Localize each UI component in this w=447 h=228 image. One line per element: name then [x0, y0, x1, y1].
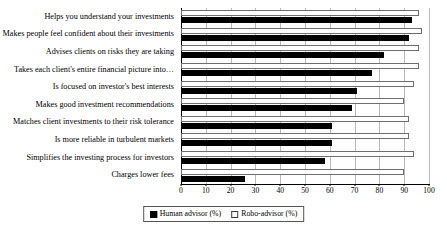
- x-axis-ticks: 0102030405060708090100: [181, 186, 429, 198]
- bar-human-advisor: [181, 158, 325, 164]
- bar-robo-advisor: [181, 10, 419, 16]
- bar-robo-advisor: [181, 98, 404, 104]
- category-label: Makes people feel confident about their …: [3, 29, 174, 38]
- bar-row: [181, 26, 429, 44]
- bar-row: [181, 96, 429, 114]
- bar-human-advisor: [181, 70, 372, 76]
- legend-item: Robo-advisor (%): [231, 209, 297, 219]
- bar-human-advisor: [181, 123, 332, 129]
- bar-human-advisor: [181, 140, 332, 146]
- bar-robo-advisor: [181, 169, 404, 175]
- category-label: Takes each client's entire financial pic…: [14, 65, 174, 74]
- x-tick-label: 50: [301, 186, 309, 196]
- bar-row: [181, 166, 429, 184]
- x-tick-label: 20: [227, 186, 235, 196]
- category-label: Matches client investments to their risk…: [13, 117, 174, 126]
- bar-rows: [181, 8, 429, 184]
- x-tick-label: 90: [400, 186, 408, 196]
- category-label: Is more reliable in turbulent markets: [55, 135, 174, 144]
- x-tick-label: 40: [276, 186, 284, 196]
- x-tick-label: 10: [202, 186, 210, 196]
- x-tick-label: 0: [179, 186, 183, 196]
- x-tick-label: 70: [351, 186, 359, 196]
- plot-area: [181, 8, 429, 184]
- category-label: Helps you understand your investments: [44, 12, 174, 21]
- category-label: Simplifies the investing process for inv…: [26, 153, 174, 162]
- bar-robo-advisor: [181, 151, 414, 157]
- bar-robo-advisor: [181, 63, 419, 69]
- x-axis-line: [181, 184, 430, 185]
- bar-robo-advisor: [181, 45, 419, 51]
- legend-label: Human advisor (%): [160, 209, 222, 219]
- category-label: Makes good investment recommendations: [36, 100, 174, 109]
- x-tick-label: 30: [252, 186, 260, 196]
- bar-human-advisor: [181, 17, 412, 23]
- bar-chart: Helps you understand your investmentsMak…: [0, 0, 447, 228]
- bar-row: [181, 78, 429, 96]
- x-tick-label: 80: [376, 186, 384, 196]
- x-tick-label: 100: [423, 186, 434, 196]
- category-label: Is focused on investor's best interests: [53, 82, 174, 91]
- bar-robo-advisor: [181, 133, 409, 139]
- chart-legend: Human advisor (%)Robo-advisor (%): [143, 206, 305, 222]
- x-tick-label: 60: [326, 186, 334, 196]
- category-label: Charges lower fees: [111, 170, 174, 179]
- category-axis-labels: Helps you understand your investmentsMak…: [0, 8, 178, 184]
- legend-swatch-human-advisor-icon: [150, 211, 157, 218]
- bar-robo-advisor: [181, 81, 414, 87]
- bar-row: [181, 8, 429, 26]
- bar-human-advisor: [181, 88, 357, 94]
- bar-robo-advisor: [181, 28, 422, 34]
- legend-label: Robo-advisor (%): [241, 209, 297, 219]
- category-label: Advises clients on risks they are taking: [46, 47, 174, 56]
- bar-row: [181, 43, 429, 61]
- legend-swatch-robo-advisor-icon: [231, 211, 238, 218]
- legend-item: Human advisor (%): [150, 209, 222, 219]
- bar-human-advisor: [181, 105, 352, 111]
- bar-human-advisor: [181, 35, 409, 41]
- bar-row: [181, 114, 429, 132]
- gridline-100: [429, 8, 430, 184]
- bar-row: [181, 149, 429, 167]
- bar-human-advisor: [181, 52, 384, 58]
- bar-row: [181, 61, 429, 79]
- bar-human-advisor: [181, 176, 245, 182]
- bar-row: [181, 131, 429, 149]
- bar-robo-advisor: [181, 116, 409, 122]
